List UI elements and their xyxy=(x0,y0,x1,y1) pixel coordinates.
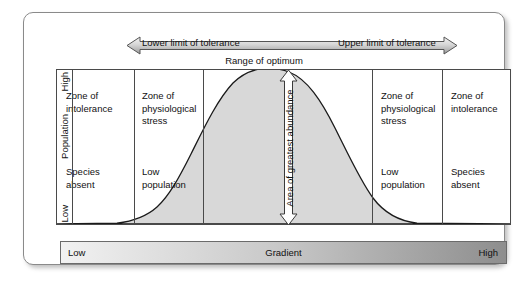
zone-divider-3 xyxy=(372,70,373,224)
y-axis-low-label: Low xyxy=(59,205,70,222)
zone-divider-2 xyxy=(203,70,204,224)
zone-4-bottom-label: Low population xyxy=(381,166,425,191)
zone-divider-1 xyxy=(134,70,135,224)
zone-2-bottom-label: Low population xyxy=(142,166,186,191)
gradient-bar: Low Gradient High xyxy=(60,241,507,264)
lower-limit-label: Lower limit of tolerance xyxy=(142,37,240,48)
tolerance-curve-figure: Lower limit of tolerance Upper limit of … xyxy=(0,0,529,283)
zone-2-top-label: Zone of physiological stress xyxy=(142,90,196,128)
gradient-high-label: High xyxy=(478,247,498,258)
gradient-title: Gradient xyxy=(61,247,506,258)
area-of-greatest-abundance-label: Area of greatest abundance xyxy=(283,89,294,206)
range-of-optimum-label: Range of optimum xyxy=(24,55,504,66)
upper-limit-label: Upper limit of tolerance xyxy=(338,37,436,48)
zone-divider-4 xyxy=(442,70,443,224)
zone-4-top-label: Zone of physiological stress xyxy=(381,90,435,128)
y-axis-high-label: High xyxy=(59,72,70,92)
y-axis: High Population Low xyxy=(56,69,73,225)
zone-5-top-label: Zone of intolerance xyxy=(451,90,497,115)
figure-card: Lower limit of tolerance Upper limit of … xyxy=(23,12,505,265)
y-axis-title: Population xyxy=(59,114,70,159)
area-of-greatest-abundance-arrow: Area of greatest abundance xyxy=(279,70,298,225)
zone-5-bottom-label: Species absent xyxy=(451,166,485,191)
